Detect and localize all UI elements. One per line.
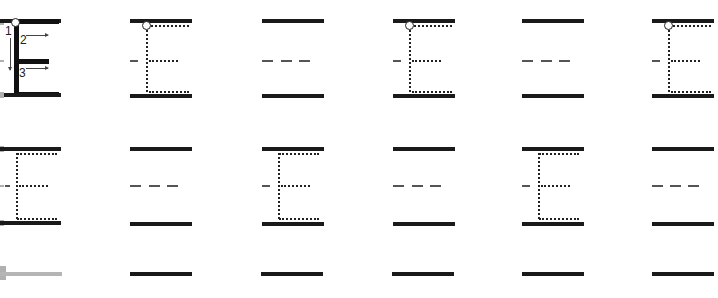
top-guide-line (393, 147, 455, 151)
mid-dash (393, 185, 404, 187)
faded-guide-line (0, 272, 62, 276)
dotted-top-bar (673, 25, 711, 27)
mid-dash (541, 60, 552, 62)
dotted-bottom-bar (539, 218, 579, 220)
mid-dash (393, 60, 401, 62)
start-point-icon (664, 21, 673, 30)
stroke-3-middle-bar (14, 59, 49, 64)
dotted-middle-bar (541, 185, 570, 187)
guide-line (261, 272, 323, 276)
dotted-vertical (16, 153, 18, 219)
mid-dash (652, 60, 660, 62)
mid-dash (430, 185, 441, 187)
dotted-bottom-bar (17, 218, 57, 220)
bottom-guide-line (522, 222, 584, 226)
dotted-middle-bar (412, 60, 441, 62)
mid-dash (299, 60, 310, 62)
mid-dash (412, 185, 423, 187)
bottom-guide-line (652, 94, 714, 98)
stroke-2-arrow-icon (26, 35, 48, 36)
guide-line (130, 272, 192, 276)
top-guide-line (262, 147, 324, 151)
bottom-guide-line (262, 94, 324, 98)
dotted-vertical (146, 30, 148, 92)
mid-dash (522, 60, 533, 62)
bottom-guide-line (393, 222, 455, 226)
dotted-top-bar (539, 153, 579, 155)
top-guide-line (130, 147, 192, 151)
dotted-middle-bar (19, 185, 48, 187)
mid-dash (281, 60, 292, 62)
mid-dash (688, 185, 699, 187)
stroke-3-arrow-icon (26, 68, 48, 69)
trace-letter-e (130, 16, 194, 96)
stroke-1-arrow-icon (10, 38, 11, 70)
bottom-guide-line (522, 94, 584, 98)
top-guide-line (130, 19, 192, 23)
bottom-guide-line (130, 222, 192, 226)
blank-writing-cell[interactable] (130, 144, 194, 224)
mid-dash (670, 185, 681, 187)
dotted-bottom-bar (279, 218, 319, 220)
mid-dash (652, 185, 663, 187)
dotted-bottom-bar (671, 91, 711, 93)
blank-writing-cell[interactable] (522, 16, 586, 96)
top-guide-line (522, 19, 584, 23)
mid-dash (130, 60, 138, 62)
dotted-middle-bar (671, 60, 700, 62)
start-point-icon (11, 18, 20, 27)
mid-dash (559, 60, 570, 62)
trace-letter-e (262, 144, 326, 224)
mid-dash (262, 60, 273, 62)
dotted-vertical (278, 153, 280, 219)
dotted-top-bar (151, 25, 189, 27)
mid-dash (262, 185, 270, 187)
row-marker (0, 92, 4, 98)
start-point-icon (405, 21, 414, 30)
dotted-top-bar (414, 25, 452, 27)
mid-dash (5, 185, 10, 187)
bottom-guide-line (130, 94, 192, 98)
mid-dash (522, 185, 530, 187)
dotted-vertical (409, 30, 411, 92)
top-guide-line (652, 19, 714, 23)
dotted-top-bar (279, 153, 319, 155)
row-marker (0, 60, 4, 62)
dotted-middle-bar (149, 60, 178, 62)
stroke-number-1: 1 (5, 25, 12, 37)
top-guide-line (0, 147, 61, 151)
bottom-guide-line (0, 221, 61, 225)
guide-line (522, 272, 584, 276)
blank-writing-cell[interactable] (652, 144, 716, 224)
dotted-top-bar (17, 153, 57, 155)
dotted-middle-bar (281, 185, 310, 187)
bottom-guide-line (652, 222, 714, 226)
dotted-bottom-bar (412, 91, 452, 93)
top-guide-line (522, 147, 584, 151)
trace-letter-e (393, 16, 457, 96)
guide-line (652, 272, 714, 276)
top-guide-line (262, 19, 324, 23)
mid-dash (130, 185, 141, 187)
dotted-bottom-bar (149, 91, 189, 93)
top-guide-line (652, 147, 714, 151)
bottom-guide-line (0, 93, 61, 97)
trace-letter-e (652, 16, 716, 96)
trace-letter-e (0, 144, 64, 224)
guide-line (392, 272, 454, 276)
bottom-guide-line (262, 222, 324, 226)
stroke-number-3: 3 (19, 67, 26, 79)
dotted-vertical (538, 153, 540, 219)
mid-dash (167, 185, 178, 187)
stroke-2-top-bar (14, 19, 59, 24)
row-marker (0, 185, 4, 187)
mid-dash (149, 185, 160, 187)
trace-letter-e (522, 144, 586, 224)
model-letter-e: 1 2 3 (0, 16, 64, 96)
blank-writing-cell[interactable] (262, 16, 326, 96)
blank-writing-cell[interactable] (393, 144, 457, 224)
start-point-icon (142, 21, 151, 30)
dotted-vertical (668, 30, 670, 92)
top-guide-line (393, 19, 455, 23)
bottom-guide-line (393, 94, 455, 98)
